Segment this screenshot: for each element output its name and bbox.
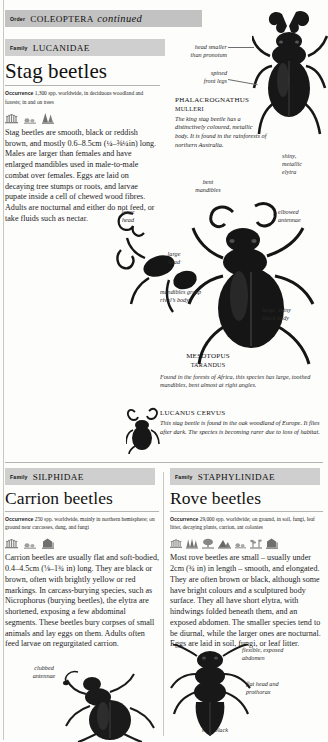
occurrence-rove: Occurrence 29,000 spp. worldwide; on gro… [170, 515, 323, 532]
rove-beetles-section: Family STAPHYLINIDAE Rove beetles Occurr… [164, 468, 328, 740]
bottom-columns: Family SILPHIDAE Carrion beetles Occurre… [0, 468, 328, 740]
occurrence-label: Occurrence [5, 516, 33, 522]
annotation-bent-mandibles: bent mandibles [188, 178, 228, 194]
order-rank-label: Order [10, 16, 25, 22]
species-description: This stag beetle is found in the oak woo… [160, 419, 326, 436]
grass-icon [170, 538, 182, 549]
annotation-head-smaller: head smaller than pronotum [175, 43, 227, 59]
page-title-rove: Rove beetles [170, 490, 325, 508]
species-caption-lucanus: LUCANUS CERVUS This stag beetle is found… [160, 409, 326, 437]
annotation-shiny-elytra: shiny, metallic elytra [282, 152, 322, 176]
species-caption-phalacrognathus: PHALACROGNATHUS MULLERI The king stag be… [175, 96, 267, 149]
family-band-silphidae: Family SILPHIDAE [5, 468, 155, 485]
family-rank-label: Family [175, 474, 193, 480]
body-text-carrion: Carrion beetles are usually flat and sof… [5, 553, 159, 650]
species-name: LUCANUS CERVUS [160, 409, 326, 418]
habitat-icon-strip-stag [5, 111, 160, 124]
order-band: Order COLEOPTERA continued [5, 10, 202, 27]
mountain-icon [218, 538, 231, 549]
occurrence-label: Occurrence [5, 90, 33, 96]
species-caption-mesotopus: MESOTOPUS TARANDUS [154, 352, 262, 370]
beetle-illustration-rove [170, 644, 252, 740]
divider [5, 511, 159, 512]
shrub-icon [24, 114, 36, 124]
family-rank-label: Family [10, 474, 28, 480]
annotation-large-head: large head [159, 250, 189, 266]
page-title-stag: Stag beetles [5, 61, 165, 82]
beetle-illustration-lucanus [126, 404, 160, 454]
building-icon [42, 537, 54, 549]
occurrence-label: Occurrence [170, 516, 198, 522]
annotation-large-shiny-body: large, shiny black body [262, 306, 324, 322]
divider [5, 85, 160, 86]
shrub-icon [235, 539, 246, 549]
species-description-mesotopus: Found in the forests of Africa, this spe… [160, 373, 326, 389]
tree-icon [202, 538, 214, 549]
body-text-rove: Most rove beetles are small – usually un… [170, 553, 322, 650]
annotation-clubbed-antennae: clubbed antennae [22, 664, 66, 680]
species-description: The king stag beetle has a distinctively… [175, 115, 267, 150]
page-title-carrion: Carrion beetles [5, 490, 161, 508]
family-name-lucanidae: LUCANIDAE [33, 40, 90, 55]
species-name: PHALACROGNATHUS MULLERI [175, 96, 267, 114]
family-name-staphylinidae: STAPHYLINIDAE [198, 469, 275, 484]
grass-icon [5, 113, 18, 124]
carrion-beetles-section: Family SILPHIDAE Carrion beetles Occurre… [0, 468, 164, 740]
family-band-staphylinidae: Family STAPHYLINIDAE [170, 468, 320, 485]
section-divider [5, 462, 323, 463]
divider [170, 511, 323, 512]
species-name: MESOTOPUS TARANDUS [154, 352, 262, 370]
plants-icon [250, 538, 262, 549]
building-icon [266, 537, 278, 549]
shrub-icon [24, 539, 36, 549]
habitat-icon-strip-rove [170, 536, 320, 549]
leader-line [228, 47, 254, 48]
occurrence-stag: Occurrence 1,300 spp. worldwide, in deci… [5, 89, 160, 106]
habitat-icon-strip-carrion [5, 536, 156, 549]
order-name: COLEOPTERA continued [30, 11, 142, 26]
beetle-illustration-carrion [62, 664, 158, 742]
annotation-spined-legs: spined front legs [183, 69, 227, 85]
trees-icon [186, 538, 198, 549]
annotation-large-head-left: large head [116, 208, 140, 224]
annotation-mandibles-grasp: mandibles grasp rival’s body [160, 288, 230, 304]
annotation-flat-head: flat head and prothorax [246, 680, 308, 696]
family-name-silphidae: SILPHIDAE [33, 469, 84, 484]
family-rank-label: Family [10, 45, 28, 51]
grass-icon [5, 538, 18, 549]
forest-icon [42, 112, 54, 124]
occurrence-carrion: Occurrence 250 spp. worldwide, mainly in… [5, 515, 159, 532]
family-band-lucanidae: Family LUCANIDAE [5, 39, 165, 56]
annotation-flexible-abdomen: flexible, exposed abdomen [242, 646, 312, 662]
